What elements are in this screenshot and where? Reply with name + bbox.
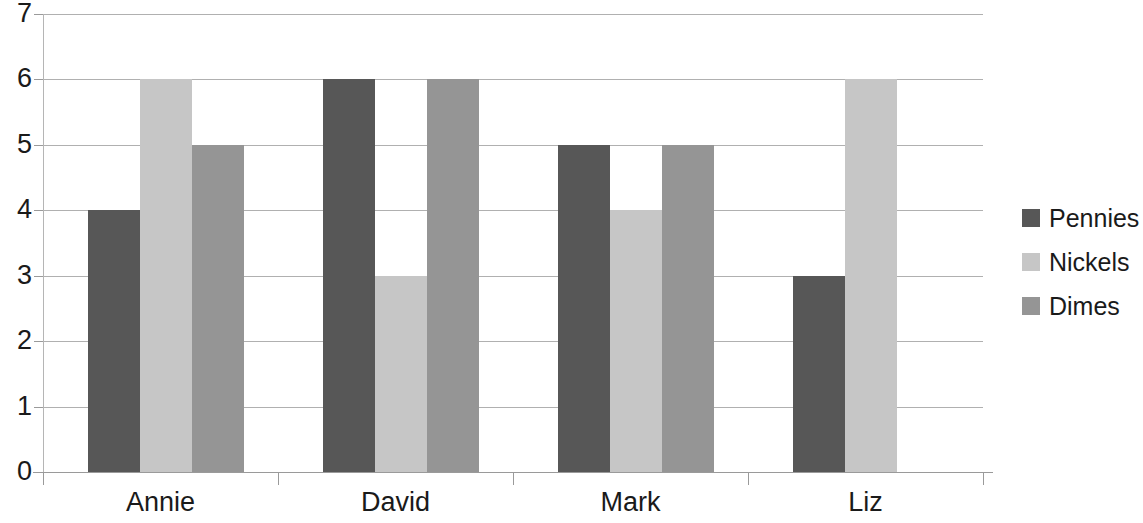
x-axis-label-annie: Annie (43, 487, 278, 517)
bar-mark-dimes (662, 145, 714, 472)
y-axis-tick-label: 5 (0, 131, 32, 158)
bar-mark-nickels (610, 210, 662, 472)
y-axis-tick-label: 2 (0, 327, 32, 354)
legend-label: Pennies (1049, 206, 1139, 231)
bar-david-dimes (427, 79, 479, 472)
y-axis-tick-label: 1 (0, 393, 32, 420)
bar-annie-nickels (140, 79, 192, 472)
legend-label: Dimes (1049, 294, 1120, 319)
legend-item-dimes[interactable]: Dimes (1022, 284, 1139, 328)
bar-chart: 01234567 AnnieDavidMarkLiz PenniesNickel… (0, 0, 1143, 523)
y-axis-tick-label: 7 (0, 0, 32, 27)
legend-item-nickels[interactable]: Nickels (1022, 240, 1139, 284)
x-axis-label-mark: Mark (513, 487, 748, 517)
legend-label: Nickels (1049, 250, 1130, 275)
bar-david-pennies (323, 79, 375, 472)
y-axis-tick-label: 0 (0, 458, 32, 485)
x-axis-tick (278, 472, 279, 485)
dimes-swatch (1022, 297, 1040, 315)
y-axis-tick (34, 210, 43, 211)
y-axis-tick (34, 145, 43, 146)
y-axis-tick (34, 79, 43, 80)
y-axis-tick (34, 14, 43, 15)
legend-item-pennies[interactable]: Pennies (1022, 196, 1139, 240)
y-axis-tick (34, 276, 43, 277)
x-axis-label-liz: Liz (748, 487, 983, 517)
nickels-swatch (1022, 253, 1040, 271)
bar-annie-pennies (88, 210, 140, 472)
x-axis-tick (513, 472, 514, 485)
y-axis-tick (34, 407, 43, 408)
chart-legend: PenniesNickelsDimes (1022, 196, 1139, 328)
pennies-swatch (1022, 209, 1040, 227)
x-axis-tick (748, 472, 749, 485)
x-axis-label-david: David (278, 487, 513, 517)
y-axis-tick-label: 4 (0, 196, 32, 223)
y-axis-tick-label: 3 (0, 262, 32, 289)
bar-liz-nickels (845, 79, 897, 472)
x-axis-tick (43, 472, 44, 485)
bar-mark-pennies (558, 145, 610, 472)
bar-david-nickels (375, 276, 427, 472)
y-axis-tick (34, 341, 43, 342)
bar-liz-pennies (793, 276, 845, 472)
bar-annie-dimes (192, 145, 244, 472)
x-axis-tick (983, 472, 984, 485)
y-axis-tick-label: 6 (0, 65, 32, 92)
bars-layer (43, 14, 983, 472)
